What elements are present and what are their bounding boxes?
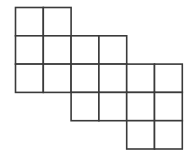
- grid-cell-r3-c4: [127, 92, 155, 120]
- grid-cell-r2-c4: [127, 64, 155, 92]
- grid-cell-r1-c1: [43, 36, 71, 64]
- grid-cell-r0-c0: [16, 8, 44, 36]
- grid-cell-r2-c0: [16, 64, 44, 92]
- staircase-grid-diagram: [0, 0, 191, 158]
- grid-cell-r2-c1: [43, 64, 71, 92]
- grid-cell-r1-c0: [16, 36, 44, 64]
- grid-cell-r3-c5: [155, 92, 183, 120]
- grid-cell-r2-c2: [71, 64, 99, 92]
- grid-cell-r0-c1: [43, 8, 71, 36]
- grid-cell-r1-c3: [99, 36, 127, 64]
- grid-cell-r1-c2: [71, 36, 99, 64]
- grid-cell-r3-c3: [99, 92, 127, 120]
- grid-cell-r4-c4: [127, 121, 155, 149]
- grid-cell-r4-c5: [155, 121, 183, 149]
- grid-cell-r3-c2: [71, 92, 99, 120]
- grid-cell-r2-c3: [99, 64, 127, 92]
- grid-cell-r2-c5: [155, 64, 183, 92]
